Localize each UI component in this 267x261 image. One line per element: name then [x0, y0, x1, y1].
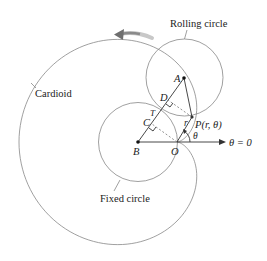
label-point-O: O	[171, 146, 179, 157]
label-theta: θ	[193, 131, 198, 141]
label-polar-axis: θ = 0	[229, 137, 252, 148]
polar-axis-arrowhead-icon	[219, 139, 226, 145]
leader-rolling-circle	[185, 30, 188, 39]
label-point-D: D	[159, 92, 168, 103]
right-angle-mark-C	[149, 127, 156, 131]
segment-AP	[184, 78, 192, 117]
point-B	[136, 140, 140, 144]
label-cardioid: Cardioid	[35, 88, 72, 99]
dashed-PD	[168, 100, 192, 117]
label-point-C: C	[143, 117, 151, 128]
right-angle-mark-D	[166, 103, 173, 107]
segment-BA	[138, 78, 184, 142]
cardioid-diagram: Rolling circle Cardioid Fixed circle θ =…	[0, 0, 267, 261]
dashed-OC	[152, 124, 177, 142]
label-point-P: P(r, θ)	[194, 119, 222, 131]
label-point-B: B	[133, 146, 140, 157]
direction-arrow-icon	[114, 29, 152, 40]
point-A	[182, 76, 186, 80]
label-fixed-circle: Fixed circle	[100, 193, 150, 204]
point-P	[190, 115, 193, 118]
label-point-T: T	[150, 108, 156, 118]
label-point-A: A	[173, 73, 181, 84]
leader-fixed-circle	[114, 180, 120, 191]
label-rolling-circle: Rolling circle	[170, 18, 228, 29]
label-r: r	[184, 118, 188, 128]
